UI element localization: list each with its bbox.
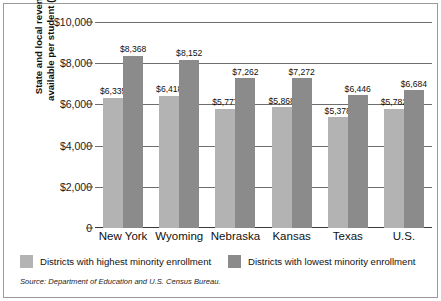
bar[interactable]: $6,684 bbox=[404, 90, 424, 228]
y-axis-tick-mark bbox=[86, 22, 93, 23]
bar-group: $5,868$7,272 bbox=[264, 22, 320, 228]
y-axis-tick-label: $10,000 bbox=[6, 17, 92, 28]
legend-swatch-icon-dark bbox=[228, 255, 241, 268]
source-note: Source: Department of Education and U.S.… bbox=[20, 278, 221, 286]
x-axis-labels: New YorkWyomingNebraskaKansasTexasU.S. bbox=[95, 230, 432, 243]
bar-value-label: $7,262 bbox=[232, 68, 258, 77]
y-axis-tick-mark bbox=[86, 186, 93, 187]
bar[interactable]: $8,152 bbox=[179, 60, 199, 228]
chart-legend: Districts with highest minority enrollme… bbox=[20, 255, 432, 268]
y-axis-tick-mark bbox=[86, 228, 93, 229]
y-axis-tick-label: $8,000 bbox=[6, 58, 92, 69]
x-axis-category-label: Kansas bbox=[264, 230, 320, 243]
bar[interactable]: $7,272 bbox=[292, 78, 312, 228]
bar[interactable]: $6,446 bbox=[348, 95, 368, 228]
y-axis-tick-label: 0 bbox=[6, 223, 92, 234]
bar-value-label: $6,684 bbox=[401, 80, 427, 89]
y-axis-tick-mark bbox=[86, 63, 93, 64]
x-axis-category-label: New York bbox=[95, 230, 151, 243]
y-axis-tick-mark bbox=[86, 145, 93, 146]
bar[interactable]: $5,378 bbox=[328, 117, 348, 228]
bar-group: $5,782$6,684 bbox=[376, 22, 432, 228]
x-axis-category-label: U.S. bbox=[376, 230, 432, 243]
bar[interactable]: $6,335 bbox=[103, 98, 123, 229]
chart-figure: State and local revenues available per s… bbox=[0, 0, 441, 301]
x-axis-category-label: Texas bbox=[320, 230, 376, 243]
bar[interactable]: $8,368 bbox=[123, 56, 143, 228]
legend-label-highest-minority: Districts with highest minority enrollme… bbox=[40, 257, 211, 267]
x-axis-category-label: Nebraska bbox=[207, 230, 263, 243]
bar-group: $5,378$6,446 bbox=[320, 22, 376, 228]
bar-groups: $6,335$8,368$6,418$8,152$5,777$7,262$5,8… bbox=[95, 22, 432, 228]
x-axis-category-label: Wyoming bbox=[151, 230, 207, 243]
legend-label-lowest-minority: Districts with lowest minority enrollmen… bbox=[248, 257, 415, 267]
legend-swatch-icon-light bbox=[20, 255, 33, 268]
y-axis-tick-label: $2,000 bbox=[6, 182, 92, 193]
legend-item-highest-minority[interactable]: Districts with highest minority enrollme… bbox=[20, 255, 228, 268]
bar[interactable]: $7,262 bbox=[235, 78, 255, 228]
legend-item-lowest-minority[interactable]: Districts with lowest minority enrollmen… bbox=[228, 255, 415, 268]
bar[interactable]: $5,782 bbox=[384, 109, 404, 228]
bar-group: $6,418$8,152 bbox=[151, 22, 207, 228]
bar-group: $6,335$8,368 bbox=[95, 22, 151, 228]
y-axis-tick-label: $4,000 bbox=[6, 140, 92, 151]
bar[interactable]: $5,777 bbox=[215, 109, 235, 228]
bar[interactable]: $5,868 bbox=[272, 107, 292, 228]
y-axis-tick-label: $6,000 bbox=[6, 99, 92, 110]
bar-value-label: $8,368 bbox=[120, 45, 146, 54]
y-axis-tick-mark bbox=[86, 104, 93, 105]
bar-value-label: $7,272 bbox=[288, 68, 314, 77]
bar[interactable]: $6,418 bbox=[159, 96, 179, 228]
y-axis-ticks: $10,000$8,000$6,000$4,000$2,0000 bbox=[0, 22, 92, 228]
bar-group: $5,777$7,262 bbox=[207, 22, 263, 228]
bar-value-label: $8,152 bbox=[176, 49, 202, 58]
bar-value-label: $6,446 bbox=[345, 85, 371, 94]
